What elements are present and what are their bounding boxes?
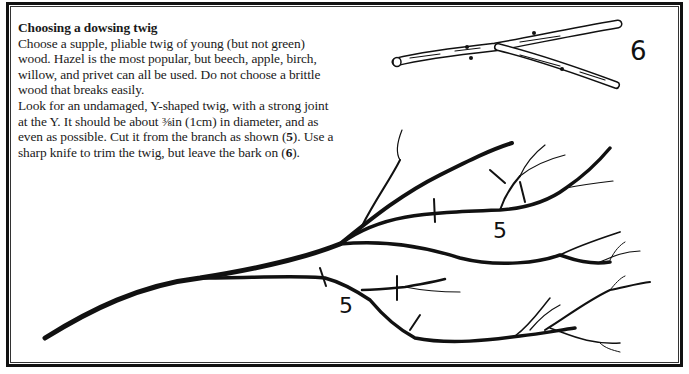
y-twig-icon (393, 24, 618, 85)
branch-label-upper: 5 (493, 218, 507, 243)
branch-diagram (45, 130, 650, 352)
twig-figure-label: 6 (630, 36, 647, 66)
branch-illustration: 6 (0, 0, 689, 374)
branch-label-lower: 5 (339, 293, 353, 318)
